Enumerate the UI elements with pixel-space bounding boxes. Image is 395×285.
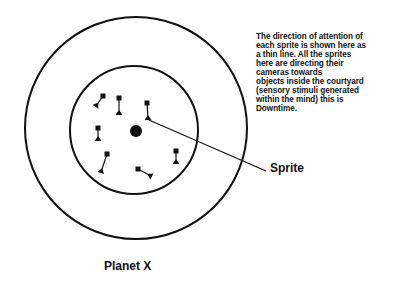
caption-line: a thin line. All the sprites (256, 50, 392, 59)
camera-square-icon (96, 126, 101, 131)
camera-square-icon (174, 149, 179, 154)
camera-square-icon (105, 152, 110, 157)
planet-core (130, 125, 142, 137)
caption-line: (sensory stimuli generated (256, 86, 392, 95)
eye-triangle-icon (116, 110, 123, 115)
caption-line: objects inside the courtyard (256, 77, 392, 86)
caption-line: each sprite is shown here as (256, 41, 392, 50)
sprite-3 (145, 101, 152, 121)
description-caption: The direction of attention of each sprit… (256, 32, 392, 113)
planet-label: Planet X (104, 259, 151, 273)
sprite-7 (136, 167, 154, 180)
sprite-5 (97, 152, 109, 175)
caption-line: cameras towards (256, 68, 392, 77)
caption-line: The direction of attention of (256, 32, 392, 41)
camera-square-icon (117, 96, 122, 101)
eye-triangle-icon (173, 159, 180, 164)
sprite-2 (116, 96, 123, 116)
sprite-label: Sprite (270, 161, 304, 175)
camera-square-icon (136, 167, 141, 172)
eye-triangle-icon (145, 115, 152, 120)
caption-line: Downtime. (256, 104, 392, 113)
caption-line: within the mind) this is (256, 95, 392, 104)
sprite-4 (95, 126, 102, 142)
eye-triangle-icon (97, 168, 104, 174)
sprite-6 (173, 149, 180, 165)
camera-square-icon (145, 101, 150, 106)
caption-line: here are directing their (256, 59, 392, 68)
sprite-pointer-line (149, 120, 266, 171)
eye-triangle-icon (147, 173, 153, 179)
eye-triangle-icon (93, 103, 99, 109)
sprite-1 (93, 94, 106, 109)
camera-square-icon (101, 94, 106, 99)
eye-triangle-icon (95, 136, 102, 141)
